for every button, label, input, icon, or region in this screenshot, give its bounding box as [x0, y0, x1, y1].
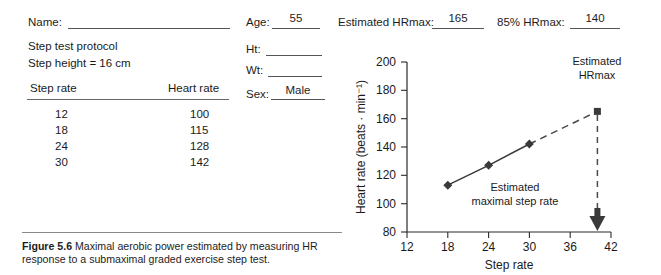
- data-point-marker: [443, 181, 452, 190]
- table-header-step-rate: Step rate: [30, 82, 77, 94]
- name-field-label: Name:: [28, 16, 62, 28]
- annotation-line: HRmax: [579, 69, 616, 81]
- y-tick-label: 160: [376, 112, 396, 126]
- table-header-divider: [27, 99, 229, 100]
- x-tick-label: 42: [604, 240, 618, 254]
- weight-field-label: Wt:: [246, 64, 263, 76]
- x-tick-label: 36: [564, 240, 578, 254]
- figure-page: Name: Step test protocol Step height = 1…: [0, 0, 661, 275]
- y-tick-label: 200: [376, 55, 396, 69]
- height-field-label: Ht:: [246, 43, 261, 55]
- table-row: 12: [55, 108, 68, 120]
- data-point-marker: [525, 140, 534, 149]
- weight-field-rule[interactable]: [268, 76, 322, 77]
- 85-percent-hrmax-rule[interactable]: [570, 28, 620, 29]
- x-tick-label: 30: [523, 240, 537, 254]
- chart-x-tick-labels: 12 18 24 30 36 42: [400, 240, 618, 254]
- age-field-rule[interactable]: [272, 28, 320, 29]
- y-tick-label: 100: [376, 197, 396, 211]
- x-axis-title: Step rate: [485, 258, 534, 272]
- protocol-line-1: Step test protocol: [28, 40, 118, 52]
- estimated-hrmax-rule[interactable]: [432, 28, 484, 29]
- y-axis-title: Heart rate (beats · min⁻¹): [354, 80, 368, 214]
- down-arrow-icon: [589, 208, 605, 231]
- y-tick-label: 80: [383, 225, 397, 239]
- estimated-maximal-step-rate-annotation: Estimated maximal step rate: [472, 181, 559, 207]
- table-row: 24: [55, 140, 68, 152]
- annotation-line: maximal step rate: [472, 195, 559, 207]
- table-row: 30: [55, 156, 68, 168]
- sex-field-label: Sex:: [246, 88, 269, 100]
- estimated-hrmax-annotation: Estimated HRmax: [573, 55, 622, 81]
- caption-divider: [22, 232, 342, 233]
- table-row: 115: [190, 124, 208, 136]
- x-tick-label: 12: [400, 240, 414, 254]
- data-point-marker: [484, 161, 493, 170]
- table-row: 100: [190, 108, 209, 120]
- name-field-rule[interactable]: [68, 28, 230, 29]
- protocol-line-2: Step height = 16 cm: [28, 57, 131, 69]
- y-tick-label: 140: [376, 140, 396, 154]
- age-field-label: Age:: [246, 16, 270, 28]
- annotation-line: Estimated: [491, 181, 540, 193]
- x-tick-label: 24: [482, 240, 496, 254]
- estimated-hrmax-marker: [594, 108, 601, 115]
- sex-field-value[interactable]: Male: [271, 84, 325, 96]
- table-header-heart-rate: Heart rate: [168, 82, 219, 94]
- height-field-rule[interactable]: [266, 55, 322, 56]
- sex-field-rule[interactable]: [271, 99, 325, 100]
- x-tick-label: 18: [441, 240, 455, 254]
- table-row: 18: [55, 124, 68, 136]
- 85-percent-hrmax-label: 85% HRmax:: [497, 16, 565, 28]
- annotation-line: Estimated: [573, 55, 622, 67]
- caption-figure-number: Figure 5.6: [22, 240, 72, 252]
- y-tick-label: 120: [376, 168, 396, 182]
- age-field-value[interactable]: 55: [272, 12, 320, 24]
- estimated-hrmax-label: Estimated HRmax:: [338, 16, 434, 28]
- heart-rate-vs-step-rate-chart: 80 100 120 140 160 180 200 12 18 24 30 3…: [350, 50, 661, 275]
- figure-caption: Figure 5.6 Maximal aerobic power estimat…: [22, 240, 352, 267]
- hrmax-extrapolation-line: [529, 111, 597, 144]
- 85-percent-hrmax-value[interactable]: 140: [570, 12, 620, 24]
- estimated-hrmax-value[interactable]: 165: [432, 12, 484, 24]
- chart-y-tick-labels: 80 100 120 140 160 180 200: [376, 55, 396, 239]
- chart-axes: [401, 62, 611, 238]
- table-row: 128: [190, 140, 209, 152]
- table-row: 142: [190, 156, 209, 168]
- y-tick-label: 180: [376, 83, 396, 97]
